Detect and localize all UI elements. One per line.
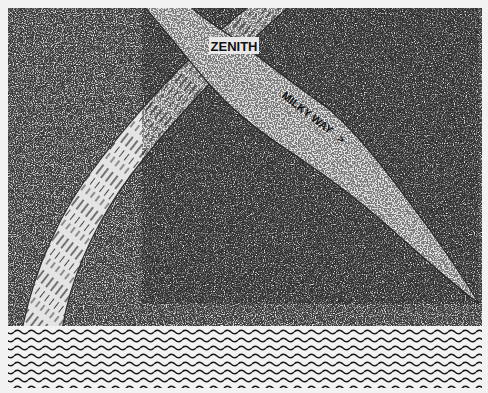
zenith-label: ZENITH <box>209 37 259 54</box>
zenith-text: ZENITH <box>211 39 258 54</box>
water-horizon <box>8 326 482 388</box>
night-sky-illustration: ZENITH MILKY WAY > <box>0 0 488 393</box>
